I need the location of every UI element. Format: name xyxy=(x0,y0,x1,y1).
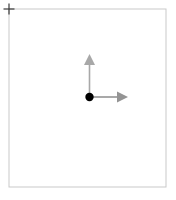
origin-point-dot[interactable] xyxy=(85,93,93,101)
canvas-stage xyxy=(0,0,176,200)
coordinate-frame-scene xyxy=(0,0,176,200)
